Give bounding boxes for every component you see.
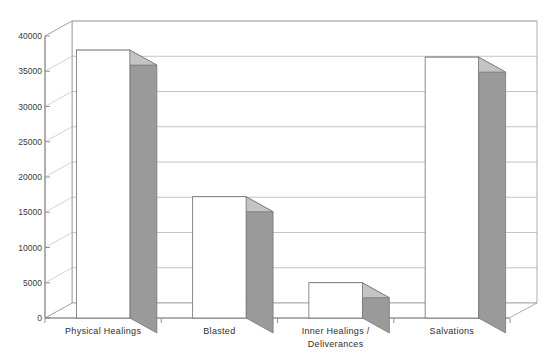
bar-column: [76, 50, 156, 333]
bar-front-face: [193, 197, 246, 318]
chart-container: 0500010000150002000025000300003500040000…: [0, 0, 549, 359]
bar-front-face: [425, 57, 478, 318]
bar-front-face: [76, 50, 129, 318]
bar-side-face: [479, 57, 506, 333]
bar-column: [425, 57, 505, 333]
x-axis-category-label: Inner Healings /: [302, 326, 370, 336]
bar-side-face: [130, 50, 157, 333]
x-axis-category-label: Salvations: [430, 326, 475, 336]
y-axis-tick-label: 20000: [18, 172, 42, 182]
y-axis-tick-label: 5000: [23, 278, 42, 288]
y-axis-tick-label: 40000: [18, 31, 42, 41]
bar-chart-3d: 0500010000150002000025000300003500040000…: [0, 0, 549, 359]
bar-column: [193, 197, 273, 333]
y-axis-tick-label: 25000: [18, 137, 42, 147]
y-axis-tick-label: 15000: [18, 207, 42, 217]
y-axis-tick-label: 10000: [18, 243, 42, 253]
y-axis-tick-label: 30000: [18, 102, 42, 112]
y-axis-tick-label: 0: [37, 313, 42, 323]
bar-front-face: [309, 283, 362, 318]
y-axis-tick-label: 35000: [18, 66, 42, 76]
x-axis-category-label: Blasted: [203, 326, 235, 336]
x-axis-category-label: Physical Healings: [65, 326, 141, 336]
x-axis-category-label: Deliverances: [308, 339, 364, 349]
bar-side-face: [246, 197, 273, 333]
